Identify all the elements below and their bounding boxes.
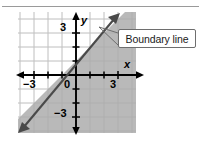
y-axis-label: y [81, 14, 87, 26]
y-axis-tick-label-neg3: −3 [54, 107, 67, 119]
boundary-line-callout: Boundary line [118, 29, 196, 48]
x-axis-label: x [124, 58, 130, 70]
linear-inequality-figure [0, 0, 202, 145]
origin-label: 0 [64, 78, 70, 90]
x-axis-tick-label-neg3: −3 [23, 78, 36, 90]
y-axis-tick-label-3: 3 [60, 21, 66, 33]
x-axis-tick-label-3: 3 [110, 78, 116, 90]
boundary-line-callout-label: Boundary line [126, 33, 189, 45]
